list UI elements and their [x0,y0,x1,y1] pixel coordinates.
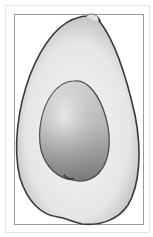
avocado-illustration [0,0,153,237]
